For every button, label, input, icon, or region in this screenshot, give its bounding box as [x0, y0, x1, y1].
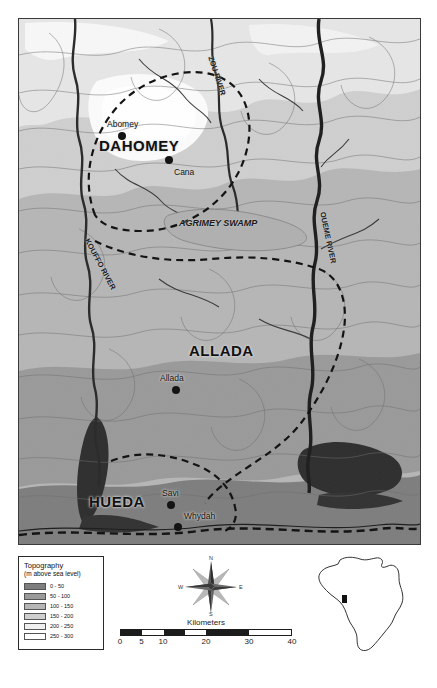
- city-label-whydah: Whydah: [184, 511, 215, 521]
- legend-label: 50 - 100: [50, 593, 70, 599]
- feature-label-agrimey-swamp: AGRIMEY SWAMP: [179, 218, 257, 228]
- legend-swatch: [24, 623, 46, 630]
- kingdom-label-hueda: HUEDA: [89, 493, 145, 510]
- city-dot-cana[interactable]: [165, 156, 173, 164]
- legend-label: 100 - 150: [50, 603, 73, 609]
- compass-label-north: N: [209, 555, 213, 561]
- terrain-raster: [19, 19, 420, 544]
- main-map[interactable]: DAHOMEY ALLADA HUEDA Abomey Cana Allada …: [18, 18, 421, 545]
- city-label-savi: Savi: [162, 488, 179, 498]
- africa-locator-inset: [306, 548, 418, 656]
- legend-title: Topography: [24, 561, 98, 570]
- scale-bar: Kilometers 0 5 10 20 30 40: [120, 618, 292, 649]
- topography-legend: Topography (m above sea level) 0 - 50 50…: [18, 556, 104, 650]
- map-figure: DAHOMEY ALLADA HUEDA Abomey Cana Allada …: [0, 0, 437, 688]
- city-label-allada: Allada: [160, 373, 184, 383]
- africa-outline-icon: [306, 548, 418, 656]
- city-dot-abomey[interactable]: [118, 132, 126, 140]
- kingdom-label-allada: ALLADA: [189, 342, 254, 359]
- compass-label-east: E: [239, 584, 243, 590]
- city-dot-allada[interactable]: [172, 386, 180, 394]
- city-dot-whydah[interactable]: [174, 523, 182, 531]
- city-label-abomey: Abomey: [107, 119, 138, 129]
- legend-label: 200 - 250: [50, 623, 73, 629]
- compass-label-west: W: [178, 584, 183, 590]
- legend-label: 150 - 200: [50, 613, 73, 619]
- legend-row: 200 - 250: [24, 622, 98, 631]
- legend-subtitle: (m above sea level): [24, 570, 98, 578]
- legend-row: 100 - 150: [24, 602, 98, 611]
- legend-row: 50 - 100: [24, 592, 98, 601]
- study-area-marker: [342, 595, 347, 603]
- scale-tick: 40: [288, 637, 297, 646]
- legend-label: 250 - 300: [50, 633, 73, 639]
- scale-tick-labels: 0 5 10 20 30 40: [120, 637, 292, 649]
- legend-label: 0 - 50: [50, 583, 64, 589]
- scale-tick: 0: [118, 637, 122, 646]
- compass-label-south: S: [209, 611, 213, 617]
- scale-tick: 30: [245, 637, 254, 646]
- city-dot-savi[interactable]: [167, 501, 175, 509]
- scale-bar-graphic: [120, 629, 292, 636]
- scale-tick: 10: [159, 637, 168, 646]
- scale-caption: Kilometers: [120, 618, 292, 627]
- scale-tick: 20: [202, 637, 211, 646]
- kingdom-label-dahomey: DAHOMEY: [99, 137, 179, 154]
- legend-row: 150 - 200: [24, 612, 98, 621]
- compass-rose-icon: [176, 556, 246, 618]
- legend-row: 0 - 50: [24, 582, 98, 591]
- legend-swatch: [24, 593, 46, 600]
- legend-row: 250 - 300: [24, 632, 98, 641]
- legend-swatch: [24, 633, 46, 640]
- city-label-cana: Cana: [174, 167, 194, 177]
- legend-swatch: [24, 603, 46, 610]
- legend-swatch: [24, 613, 46, 620]
- compass-rose: N S E W: [176, 556, 246, 618]
- legend-swatch: [24, 583, 46, 590]
- scale-tick: 5: [139, 637, 143, 646]
